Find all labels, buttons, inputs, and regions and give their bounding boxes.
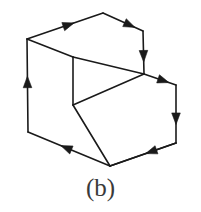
edge-A-D	[27, 39, 73, 57]
edge-G-E	[73, 74, 144, 105]
edge-A-B-arrowhead-icon	[62, 23, 74, 31]
edge-B-C	[103, 13, 143, 31]
edge-G-H	[73, 105, 110, 166]
edge-E-F-arrowhead-icon	[157, 75, 169, 83]
edge-I-H	[110, 143, 176, 166]
edge-J-A-arrowhead-icon	[23, 76, 32, 88]
edge-F-I-arrowhead-icon	[172, 113, 181, 125]
edge-I-H-arrowhead-icon	[146, 146, 158, 154]
figure-container: (b)	[0, 0, 201, 212]
edge-B-C-arrowhead-icon	[123, 19, 135, 28]
edge-H-J-arrowhead-icon	[61, 146, 73, 154]
edge-D-E	[73, 57, 144, 74]
edge-C-E-arrowhead-icon	[139, 50, 148, 62]
figure-caption: (b)	[0, 172, 201, 204]
